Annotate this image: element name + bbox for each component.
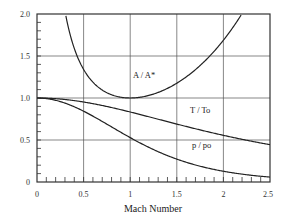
isentropic-flow-chart: A / A* T / To p / po 2.0 1.5 1.0 0.5 0 0… <box>0 0 286 215</box>
temperature-ratio-curve <box>37 98 270 145</box>
svg-text:0.5: 0.5 <box>20 136 30 145</box>
svg-text:1.5: 1.5 <box>172 190 182 199</box>
x-minor-ticks <box>46 177 260 182</box>
temperature-ratio-label: T / To <box>190 105 210 115</box>
svg-text:1.0: 1.0 <box>20 94 30 103</box>
svg-text:0: 0 <box>26 178 30 187</box>
pressure-ratio-label: p / po <box>192 140 211 150</box>
svg-text:2.0: 2.0 <box>20 10 30 19</box>
svg-text:0.5: 0.5 <box>79 190 89 199</box>
y-tick-labels: 2.0 1.5 1.0 0.5 0 <box>20 10 30 187</box>
svg-text:2: 2 <box>221 190 225 199</box>
svg-text:1: 1 <box>128 190 132 199</box>
x-axis-title: Mach Number <box>124 203 183 214</box>
svg-text:0: 0 <box>35 190 39 199</box>
x-tick-labels: 0 0.5 1 1.5 2 2.5 <box>35 190 273 199</box>
area-ratio-label: A / A* <box>133 70 155 80</box>
area-ratio-curve <box>66 15 241 98</box>
svg-text:1.5: 1.5 <box>20 52 30 61</box>
svg-text:2.5: 2.5 <box>263 190 273 199</box>
